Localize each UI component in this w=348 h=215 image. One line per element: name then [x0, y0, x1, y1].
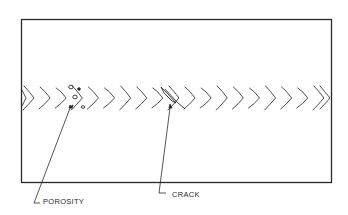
porosity-label: POROSITY [43, 197, 84, 206]
weld-diagram [0, 0, 348, 215]
porosity-leader [34, 108, 70, 203]
weld-bead-ripples [22, 86, 330, 110]
callout-leaders [34, 104, 172, 203]
crack-label: CRACK [172, 190, 200, 199]
crack-leader [159, 108, 170, 193]
